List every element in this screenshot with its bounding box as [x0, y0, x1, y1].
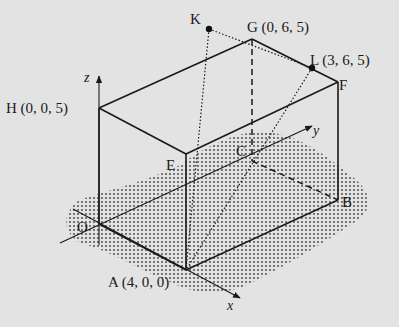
shaded-ground-region [66, 132, 368, 292]
label-L: L (3, 6, 5) [310, 52, 370, 69]
label-O: O [77, 219, 88, 235]
label-H: H (0, 0, 5) [6, 100, 68, 117]
point-K-marker [206, 26, 212, 32]
label-F: F [339, 77, 347, 93]
label-K: K [190, 11, 201, 27]
cuboid-diagram: H (0, 0, 5) K G (0, 6, 5) L (3, 6, 5) F … [0, 0, 399, 327]
label-axis-x: x [226, 298, 234, 313]
label-B: B [342, 194, 352, 210]
label-A: A (4, 0, 0) [108, 274, 169, 291]
diagram-canvas: H (0, 0, 5) K G (0, 6, 5) L (3, 6, 5) F … [0, 0, 399, 327]
edge-H-G [99, 39, 252, 108]
label-E: E [166, 157, 175, 173]
label-axis-z: z [83, 70, 90, 85]
label-G: G (0, 6, 5) [247, 19, 309, 36]
label-C: C [236, 143, 246, 159]
edge-H-E [99, 108, 186, 154]
label-axis-y: y [311, 123, 320, 138]
